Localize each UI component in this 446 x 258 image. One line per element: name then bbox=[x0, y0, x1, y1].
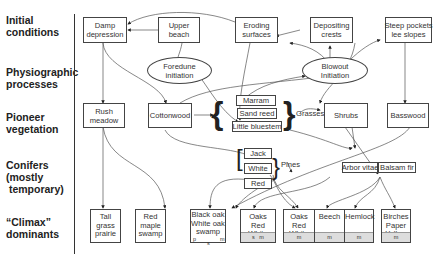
pines-label: Pines bbox=[281, 160, 300, 169]
basswood-box: Basswood bbox=[387, 103, 429, 128]
beech-foot: m bbox=[315, 232, 344, 242]
jack-pine-box: Jack bbox=[244, 148, 272, 159]
beech-box: Beech m bbox=[314, 209, 345, 243]
eroding-surfaces-box: Eroding surfaces bbox=[235, 17, 278, 43]
marram-box: Marram bbox=[236, 95, 276, 106]
hemlock-foot: m bbox=[345, 232, 373, 242]
birches-box: Birches Paper Yellow m bbox=[381, 209, 411, 243]
damp-depression-box: Damp depression bbox=[83, 17, 127, 43]
oaks-box-1: Oaks Red White s m bbox=[240, 209, 276, 243]
grasses-label: Grasses bbox=[296, 109, 324, 118]
black-oak-swamp-label: Black oak White oak swamp bbox=[191, 210, 225, 237]
upper-beach-box: Upper beach bbox=[158, 17, 200, 43]
steep-pockets-box: Steep pockets lee slopes bbox=[385, 17, 432, 43]
balsam-fir-box: Balsam fir bbox=[378, 162, 416, 173]
blowout-initiation-ellipse: Blowout Initiation bbox=[302, 57, 368, 84]
sand-reed-box: Sand reed bbox=[237, 108, 277, 119]
depositing-crests-box: Depositing crests bbox=[310, 17, 353, 43]
grass-brace-left: { bbox=[211, 97, 223, 129]
red-maple-swamp-label: Red maple swamp bbox=[136, 210, 165, 239]
foredune-initiation-ellipse: Foredune initiation bbox=[147, 57, 212, 84]
oaks-box-2: Oaks Red White m bbox=[283, 209, 315, 243]
rush-meadow-box: Rush meadow bbox=[83, 103, 125, 128]
red-pine-box: Red bbox=[244, 178, 272, 189]
arbor-vitae-box: Arbor vitae bbox=[342, 162, 378, 173]
black-oak-swamp-box: Black oak White oak swamp p s m bbox=[190, 209, 226, 243]
grass-brace-right: } bbox=[283, 97, 295, 129]
little-bluestem-box: Little bluestem bbox=[232, 121, 282, 132]
hemlock-box: Hemlock m bbox=[344, 209, 374, 243]
mark-s: s bbox=[207, 239, 210, 248]
red-maple-swamp-box: Red maple swamp bbox=[135, 209, 166, 243]
oaks-2-foot: m bbox=[284, 232, 314, 242]
hemlock-label: Hemlock bbox=[345, 210, 373, 222]
tall-grass-prairie-box: Tall grass prairie bbox=[90, 209, 121, 243]
pine-brace-right: } bbox=[272, 155, 280, 179]
mark-m: m bbox=[220, 235, 225, 244]
tall-grass-prairie-label: Tall grass prairie bbox=[91, 210, 120, 239]
beech-label: Beech bbox=[315, 210, 344, 222]
oaks-1-foot: s m bbox=[241, 232, 275, 242]
cottonwood-box: Cottonwood bbox=[148, 103, 192, 128]
shrubs-box: Shrubs bbox=[324, 103, 368, 128]
mark-p: p bbox=[193, 235, 196, 244]
white-pine-box: White bbox=[244, 163, 272, 174]
birches-foot: m bbox=[382, 232, 410, 242]
pine-brace-left: [ bbox=[236, 146, 243, 170]
